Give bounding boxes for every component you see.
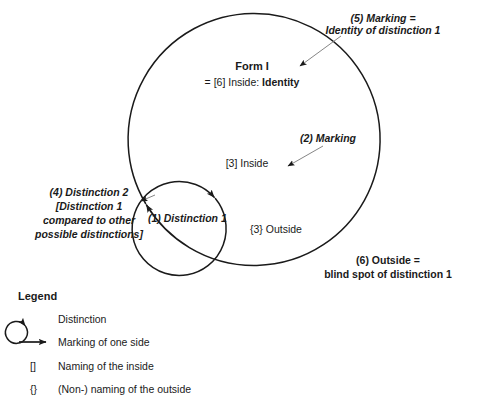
legend-item-label-distinction: Distinction: [58, 313, 106, 325]
legend-title: Legend: [18, 290, 57, 303]
outer-region-label: {3} Outside: [250, 223, 340, 235]
legend-item-symbol-curly-brackets: {}: [30, 383, 37, 395]
form-subtitle-prefix: = [6] Inside:: [205, 76, 263, 88]
annotation-6-line-2: blind spot of distinction 1: [324, 268, 452, 280]
annotation-4-distinction-2: (4) Distinction 2[Distinction 1compared …: [14, 186, 164, 241]
leader-line-annotation-2: [288, 146, 323, 166]
annotation-4-line-3: compared to other: [43, 214, 135, 226]
legend-item-label-naming-outside: (Non-) naming of the outside: [58, 383, 191, 395]
annotation-5-line-1: (5) Marking =: [350, 12, 415, 24]
annotation-6-line-1: (6) Outside =: [356, 254, 420, 266]
annotation-4-line-1: (4) Distinction 2: [50, 186, 129, 198]
legend-item-label-marking: Marking of one side: [58, 336, 150, 348]
annotation-5-marking-identity: (5) Marking =Identity of distinction 1: [290, 12, 476, 37]
annotation-4-line-4: possible distinctions]: [35, 228, 143, 240]
form-subtitle: = [6] Inside: Identity: [150, 76, 354, 88]
legend-distinction-icon: [5, 321, 27, 343]
form-title: Form I: [160, 60, 344, 73]
inner-circle-label: [3] Inside: [206, 157, 288, 169]
annotation-6-outside-blind-spot: (6) Outside =blind spot of distinction 1: [300, 254, 476, 281]
form-subtitle-identity: Identity: [262, 76, 299, 88]
annotation-5-line-2: Identity of distinction 1: [326, 24, 441, 36]
legend-item-label-naming-inside: Naming of the inside: [58, 360, 154, 372]
legend-item-symbol-square-brackets: []: [30, 360, 36, 372]
annotation-2-marking: (2) Marking: [300, 132, 396, 144]
diagram-canvas: (5) Marking =Identity of distinction 1 F…: [0, 0, 480, 408]
annotation-4-line-2: [Distinction 1: [56, 200, 123, 212]
